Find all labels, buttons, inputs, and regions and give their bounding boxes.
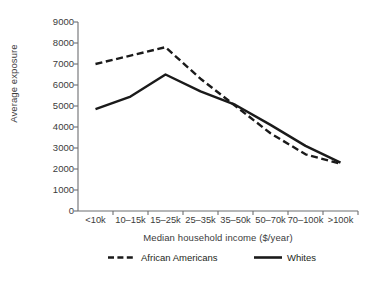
legend-item-whites: Whites <box>254 252 316 263</box>
x-axis-tick-label: >100k <box>313 215 369 225</box>
chart-legend: African Americans Whites <box>78 252 358 270</box>
legend-label-african-americans: African Americans <box>141 252 218 263</box>
series-line-african-americans <box>96 47 341 164</box>
x-axis-title: Median household income ($/year) <box>78 232 358 243</box>
legend-swatch-solid <box>254 253 282 262</box>
series-line-whites <box>96 75 341 163</box>
legend-label-whites: Whites <box>287 252 316 263</box>
legend-swatch-dashed <box>108 253 136 262</box>
legend-item-african-americans: African Americans <box>108 252 218 263</box>
chart-figure: Average exposure 01000200030004000500060… <box>0 0 392 282</box>
